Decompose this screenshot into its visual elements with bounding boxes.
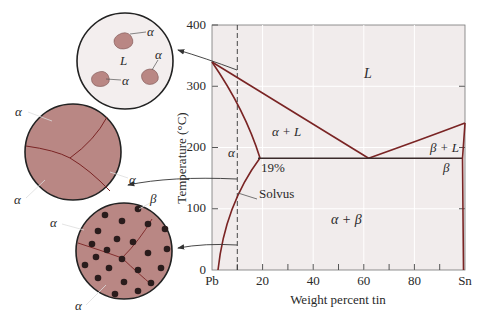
svg-text:α: α bbox=[155, 47, 163, 62]
svg-text:Pb: Pb bbox=[205, 273, 219, 288]
microstructure-alpha-grains: α α α bbox=[14, 104, 137, 207]
svg-text:20: 20 bbox=[256, 273, 269, 288]
svg-text:α: α bbox=[75, 298, 83, 313]
svg-text:200: 200 bbox=[187, 139, 207, 154]
label-alpha-liquid: α + L bbox=[272, 124, 301, 139]
microstructure-liquid-alpha: α α α L bbox=[77, 13, 173, 109]
label-alpha-beta: α + β bbox=[331, 212, 362, 227]
label-beta-liquid: β + L bbox=[429, 140, 459, 155]
label-solvus: Solvus bbox=[259, 186, 294, 201]
svg-text:40: 40 bbox=[307, 273, 320, 288]
svg-text:100: 100 bbox=[187, 200, 207, 215]
svg-text:α: α bbox=[122, 73, 130, 88]
svg-text:300: 300 bbox=[187, 78, 207, 93]
svg-text:α: α bbox=[129, 172, 137, 187]
svg-text:α: α bbox=[147, 24, 155, 39]
svg-text:L: L bbox=[119, 53, 127, 68]
svg-text:α: α bbox=[14, 192, 22, 207]
y-axis-title: Temperature (°C) bbox=[174, 112, 189, 203]
label-beta: β bbox=[442, 160, 450, 175]
phase-diagram-figure: L α + L α β + L β α + β 19% Solvus 0 100… bbox=[0, 0, 484, 320]
plot-area bbox=[212, 25, 465, 270]
svg-text:Sn: Sn bbox=[458, 273, 472, 288]
x-axis-title: Weight percent tin bbox=[290, 292, 386, 307]
svg-text:80: 80 bbox=[408, 273, 421, 288]
svg-text:60: 60 bbox=[357, 273, 370, 288]
microstructure-alpha-beta: α β α bbox=[50, 191, 172, 313]
svg-text:α: α bbox=[50, 215, 58, 230]
label-liquid: L bbox=[363, 66, 372, 81]
label-alpha: α bbox=[228, 145, 236, 160]
label-solubility-limit: 19% bbox=[261, 160, 285, 175]
svg-text:β: β bbox=[149, 191, 157, 206]
svg-text:α: α bbox=[15, 104, 23, 119]
x-tick-labels: Pb 20 40 60 80 Sn bbox=[205, 273, 472, 288]
svg-text:400: 400 bbox=[187, 17, 207, 32]
